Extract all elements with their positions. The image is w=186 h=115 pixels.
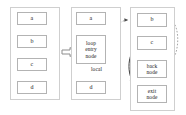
node-a2-label: a: [90, 15, 93, 22]
node-b-label: b: [30, 38, 33, 45]
node-a[interactable]: a: [17, 12, 47, 25]
node-b3-label: b: [150, 16, 153, 23]
node-loop-entry-label: loop entry node: [85, 40, 97, 58]
node-b[interactable]: b: [17, 35, 47, 48]
node-back-label: back node: [147, 63, 158, 75]
figure-canvas: a b c d a loop entry node d local b c ba…: [0, 0, 186, 115]
node-c[interactable]: c: [17, 58, 47, 71]
node-d[interactable]: d: [17, 81, 47, 94]
node-c-label: c: [31, 61, 34, 68]
node-exit[interactable]: exit node: [137, 85, 167, 103]
node-exit-label: exit node: [147, 88, 158, 100]
node-d-label: d: [30, 84, 33, 91]
node-d2[interactable]: d: [76, 81, 106, 94]
node-c3[interactable]: c: [137, 36, 167, 50]
node-c3-label: c: [151, 39, 154, 46]
node-d2-label: d: [89, 84, 92, 91]
node-b3[interactable]: b: [137, 13, 167, 27]
node-loop-entry[interactable]: loop entry node: [76, 35, 106, 64]
node-a2[interactable]: a: [76, 12, 106, 25]
node-back[interactable]: back node: [137, 60, 167, 78]
node-a-label: a: [31, 15, 34, 22]
edge-label-local: local: [91, 66, 102, 72]
